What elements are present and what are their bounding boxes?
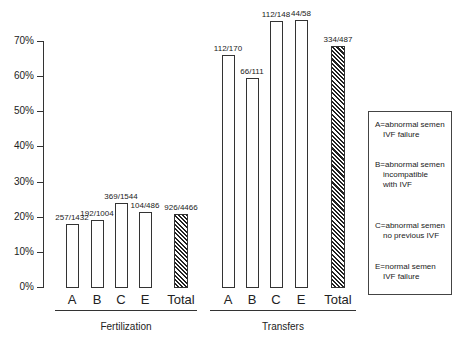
- group-label-fertilization: Fertilization: [100, 321, 151, 332]
- bar-value-label: 104/486: [131, 201, 160, 210]
- legend-text: IVF failure: [375, 272, 449, 282]
- legend-item: B=abnormal semenincompatiblewith IVF: [375, 160, 449, 190]
- bar-transfers-total: [331, 46, 345, 288]
- legend-text: incompatible: [375, 170, 449, 180]
- bar-fertilization-b: [91, 220, 104, 288]
- bar-value-label: 192/1004: [80, 209, 113, 218]
- bar-transfers-e: [295, 20, 308, 288]
- group-label-transfers: Transfers: [262, 321, 304, 332]
- bar-transfers-b: [246, 78, 259, 288]
- group-underline: [55, 310, 197, 311]
- x-category-label: C: [116, 292, 125, 307]
- x-category-label: Total: [324, 292, 351, 307]
- legend-text: A=abnormal semen: [375, 120, 449, 130]
- legend-item: C=abnormal semenno previous IVF: [375, 221, 449, 241]
- group-underline: [210, 310, 356, 311]
- y-tick: [37, 252, 43, 253]
- bar-transfers-a: [222, 55, 235, 288]
- y-tick: [37, 76, 43, 77]
- y-tick: [37, 146, 43, 147]
- legend-text: B=abnormal semen: [375, 160, 449, 170]
- bar-value-label: 369/1544: [104, 192, 137, 201]
- y-tick-label: 50%: [4, 105, 34, 116]
- bar-value-label: 66/111: [240, 67, 263, 76]
- bar-fertilization-a: [66, 224, 79, 288]
- y-tick: [37, 111, 43, 112]
- x-category-label: A: [68, 292, 77, 307]
- legend-text: no previous IVF: [375, 231, 449, 241]
- y-tick: [37, 217, 43, 218]
- y-tick: [37, 41, 43, 42]
- bar-fertilization-total: [174, 214, 188, 288]
- x-category-label: Total: [167, 292, 194, 307]
- x-category-label: B: [93, 292, 102, 307]
- bar-transfers-c: [270, 21, 283, 288]
- x-category-label: E: [297, 292, 306, 307]
- y-tick: [37, 182, 43, 183]
- y-tick: [37, 287, 43, 288]
- bar-value-label: 44/58: [291, 9, 311, 18]
- x-category-label: E: [141, 292, 150, 307]
- y-tick-label: 70%: [4, 35, 34, 46]
- bar-fertilization-c: [115, 203, 128, 288]
- bar-value-label: 112/170: [214, 44, 242, 53]
- bar-value-label: 112/148: [262, 10, 290, 19]
- legend-item: A=abnormal semenIVF failure: [375, 120, 449, 140]
- legend-text: E=normal semen: [375, 262, 449, 272]
- bar-value-label: 334/487: [324, 35, 353, 44]
- legend-text: with IVF: [375, 180, 449, 190]
- y-tick-label: 10%: [4, 246, 34, 257]
- legend-item: E=normal semenIVF failure: [375, 262, 449, 282]
- bar-fertilization-e: [139, 212, 152, 288]
- y-tick-label: 60%: [4, 70, 34, 81]
- y-tick-label: 0%: [4, 281, 34, 292]
- x-category-label: B: [248, 292, 257, 307]
- legend-text: C=abnormal semen: [375, 221, 449, 231]
- y-axis-line: [43, 41, 44, 288]
- y-tick-label: 40%: [4, 140, 34, 151]
- x-category-label: A: [224, 292, 233, 307]
- x-category-label: C: [271, 292, 280, 307]
- bar-value-label: 926/4466: [164, 203, 197, 212]
- legend-text: IVF failure: [375, 130, 449, 140]
- y-tick-label: 20%: [4, 211, 34, 222]
- legend: A=abnormal semenIVF failureB=abnormal se…: [368, 111, 452, 295]
- y-tick-label: 30%: [4, 176, 34, 187]
